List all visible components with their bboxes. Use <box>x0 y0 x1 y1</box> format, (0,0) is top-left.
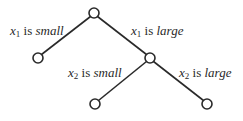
mid-node <box>145 53 155 63</box>
edge-label-x1-large: x1 is large <box>131 24 183 39</box>
edge-label-x1-small: x1 is small <box>10 24 64 39</box>
root-node <box>89 8 99 18</box>
edge-label-x2-large: x2 is large <box>179 66 231 81</box>
tree-graphic <box>0 0 243 121</box>
bottom-left-leaf-node <box>90 99 100 109</box>
edge-label-x2-small: x2 is small <box>68 66 122 81</box>
left-leaf-node <box>33 53 43 63</box>
bottom-right-leaf-node <box>202 99 212 109</box>
